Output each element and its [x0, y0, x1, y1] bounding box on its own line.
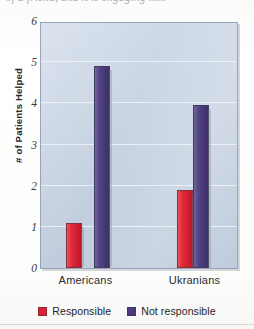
plot-area	[40, 22, 238, 269]
figure-page: of a friend, and it is engaging in... 01…	[0, 0, 254, 329]
legend-swatch-icon	[127, 307, 136, 316]
y-axis-title: # of Patients Helped	[13, 61, 24, 171]
bar-sheen	[95, 67, 109, 267]
y-tick-label-2: 2	[3, 181, 37, 193]
chart-legend: ResponsibleNot responsible	[0, 305, 254, 317]
legend-label: Not responsible	[141, 305, 215, 317]
legend-item-responsible[interactable]: Responsible	[38, 305, 111, 317]
gridline-4	[41, 102, 237, 103]
bar-drop-shadow	[81, 227, 84, 267]
bar-americans-responsible	[66, 223, 82, 268]
legend-swatch-icon	[38, 307, 47, 316]
y-tick-label-6: 6	[3, 16, 37, 28]
legend-item-not-responsible[interactable]: Not responsible	[127, 305, 215, 317]
y-tick-label-0: 0	[3, 263, 37, 275]
bar-drop-shadow	[109, 70, 112, 267]
y-tick-label-1: 1	[3, 222, 37, 234]
bar-ukranians-responsible	[177, 190, 193, 268]
cropped-caption-sliver: of a friend, and it is engaging in...	[0, 0, 254, 9]
page-bottom-rule	[0, 324, 254, 325]
x-tick-label-americans: Americans	[41, 274, 131, 286]
bar-sheen	[194, 106, 208, 267]
bar-sheen	[67, 224, 81, 267]
legend-label: Responsible	[52, 305, 111, 317]
x-tick-label-ukranians: Ukranians	[150, 274, 240, 286]
gridline-5	[41, 61, 237, 62]
bar-sheen	[178, 191, 192, 267]
bar-americans-not-responsible	[94, 66, 110, 268]
bar-ukranians-not-responsible	[193, 105, 209, 268]
bar-drop-shadow	[208, 109, 211, 267]
